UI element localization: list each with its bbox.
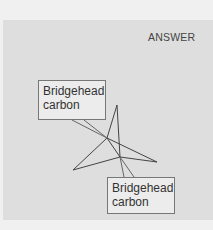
bridgehead-label-bottom: Bridgehead carbon xyxy=(107,177,175,214)
label-line1: Bridgehead xyxy=(43,84,101,98)
label-line1: Bridgehead xyxy=(112,181,170,195)
label-line2: carbon xyxy=(112,195,170,209)
bridgehead-label-top: Bridgehead carbon xyxy=(38,80,106,120)
label-line2: carbon xyxy=(43,98,101,112)
